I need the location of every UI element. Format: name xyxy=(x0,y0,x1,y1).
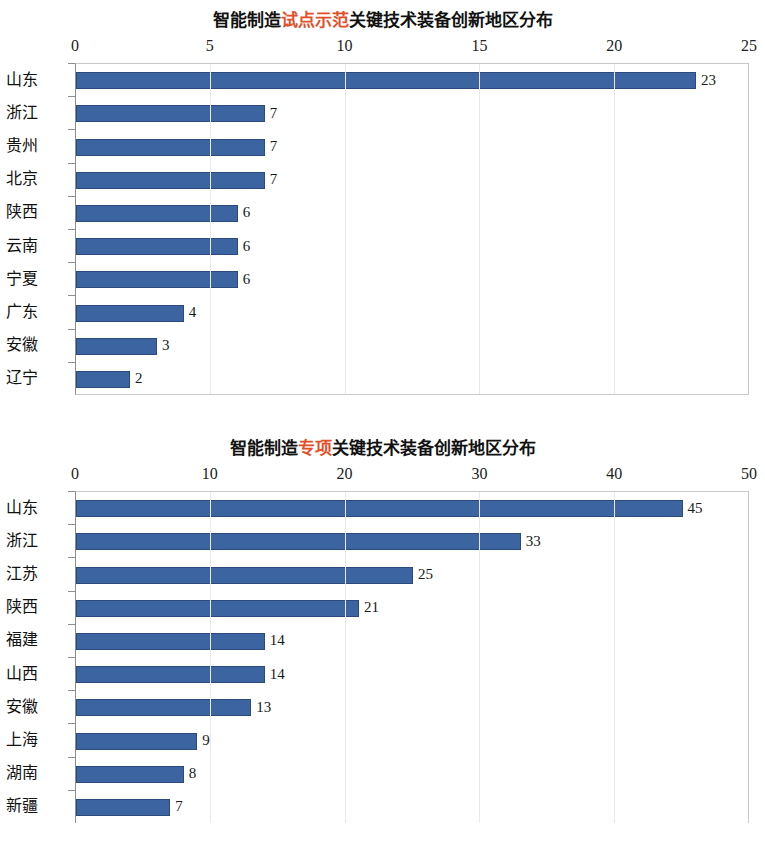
category-label: 福建 xyxy=(0,632,68,648)
chart-special-project: 智能制造专项关键技术装备创新地区分布 01020304050 山东浙江江苏陕西福… xyxy=(0,430,765,859)
c1-gridline xyxy=(479,64,480,394)
axis-tick-mark xyxy=(68,129,75,130)
bar xyxy=(76,600,359,617)
bar-value-label: 21 xyxy=(364,600,379,615)
axis-tick-mark xyxy=(68,196,75,197)
category-label: 浙江 xyxy=(0,105,68,121)
category-label: 云南 xyxy=(0,238,68,254)
chart-2-title-accent: 专项 xyxy=(298,439,332,458)
chart-1-title-accent: 试点示范 xyxy=(281,11,349,30)
bar xyxy=(76,371,130,388)
bar-value-label: 45 xyxy=(688,501,703,516)
c2-tick-label: 0 xyxy=(71,465,79,483)
axis-tick-mark xyxy=(68,557,75,558)
category-label: 辽宁 xyxy=(0,370,68,386)
bar xyxy=(76,172,265,189)
category-label: 上海 xyxy=(0,732,68,748)
axis-tick-mark xyxy=(68,757,75,758)
bar-value-label: 3 xyxy=(162,338,170,353)
c2-gridline xyxy=(614,492,615,823)
bar xyxy=(76,271,238,288)
chart-pilot-demonstration: 智能制造试点示范关键技术装备创新地区分布 0510152025 山东浙江贵州北京… xyxy=(0,0,765,430)
bar-value-label: 8 xyxy=(189,766,197,781)
bar xyxy=(76,567,413,584)
c2-tick-label: 20 xyxy=(337,465,353,483)
bar-value-label: 33 xyxy=(526,534,541,549)
bar xyxy=(76,139,265,156)
bar-value-label: 2 xyxy=(135,371,143,386)
c1-tick-label: 20 xyxy=(606,37,622,55)
axis-tick-mark xyxy=(68,723,75,724)
axis-tick-mark xyxy=(68,163,75,164)
chart-2-bars-layer xyxy=(76,492,748,823)
chart-1-x-axis: 0510152025 xyxy=(0,37,765,63)
category-label: 安徽 xyxy=(0,337,68,353)
category-label: 山东 xyxy=(0,500,68,516)
category-label: 江苏 xyxy=(0,566,68,582)
bar xyxy=(76,105,265,122)
bar-value-label: 7 xyxy=(270,139,278,154)
chart-1-title-suffix: 关键技术装备创新地区分布 xyxy=(349,11,553,30)
bar xyxy=(76,766,184,783)
chart-1-plot-wrap: 山东浙江贵州北京陕西云南宁夏广东安徽辽宁 23777666432 xyxy=(0,63,765,395)
category-label: 陕西 xyxy=(0,204,68,220)
c2-gridline xyxy=(479,492,480,823)
axis-tick-mark xyxy=(68,295,75,296)
bar xyxy=(76,666,265,683)
axis-tick-mark xyxy=(68,63,75,64)
chart-2-title-prefix: 智能制造 xyxy=(230,439,298,458)
axis-tick-mark xyxy=(68,491,75,492)
axis-tick-mark xyxy=(68,329,75,330)
category-label: 广东 xyxy=(0,304,68,320)
bar-value-label: 9 xyxy=(202,733,210,748)
c1-tick-label: 15 xyxy=(471,37,487,55)
chart-1-plot-area xyxy=(75,63,749,395)
bar-value-label: 13 xyxy=(256,700,271,715)
category-label: 贵州 xyxy=(0,138,68,154)
c1-tick-label: 10 xyxy=(337,37,353,55)
bar xyxy=(76,338,157,355)
category-label: 浙江 xyxy=(0,533,68,549)
axis-tick-mark xyxy=(68,591,75,592)
bar-value-label: 14 xyxy=(270,667,285,682)
bar xyxy=(76,533,521,550)
category-label: 陕西 xyxy=(0,599,68,615)
bar-value-label: 7 xyxy=(175,799,183,814)
axis-tick-mark xyxy=(68,624,75,625)
bar xyxy=(76,733,197,750)
bar xyxy=(76,799,170,816)
c2-tick-label: 50 xyxy=(741,465,757,483)
bar-value-label: 6 xyxy=(243,239,251,254)
bar-value-label: 6 xyxy=(243,205,251,220)
bar xyxy=(76,699,251,716)
bar xyxy=(76,305,184,322)
axis-tick-mark xyxy=(68,96,75,97)
bar xyxy=(76,72,696,89)
c2-tick-label: 30 xyxy=(471,465,487,483)
category-label: 湖南 xyxy=(0,765,68,781)
c1-tick-label: 25 xyxy=(741,37,757,55)
bar xyxy=(76,500,683,517)
c1-tick-label: 0 xyxy=(71,37,79,55)
chart-2-title: 智能制造专项关键技术装备创新地区分布 xyxy=(0,430,765,457)
chart-2-title-suffix: 关键技术装备创新地区分布 xyxy=(332,439,536,458)
axis-tick-mark xyxy=(68,690,75,691)
bar-value-label: 14 xyxy=(270,633,285,648)
category-label: 宁夏 xyxy=(0,271,68,287)
category-label: 新疆 xyxy=(0,798,68,814)
c1-gridline xyxy=(345,64,346,394)
category-label: 山西 xyxy=(0,666,68,682)
chart-2-plot-wrap: 山东浙江江苏陕西福建山西安徽上海湖南新疆 45332521141413987 xyxy=(0,491,765,823)
c2-tick-label: 40 xyxy=(606,465,622,483)
category-label: 安徽 xyxy=(0,699,68,715)
bar-value-label: 23 xyxy=(701,73,716,88)
chart-1-title-prefix: 智能制造 xyxy=(213,11,281,30)
bar xyxy=(76,238,238,255)
c2-gridline xyxy=(210,492,211,823)
axis-tick-mark xyxy=(68,262,75,263)
bar-value-label: 7 xyxy=(270,172,278,187)
axis-tick-mark xyxy=(68,790,75,791)
chart-2-x-axis: 01020304050 xyxy=(0,465,765,491)
chart-2-plot-area xyxy=(75,491,749,823)
bar-value-label: 4 xyxy=(189,305,197,320)
